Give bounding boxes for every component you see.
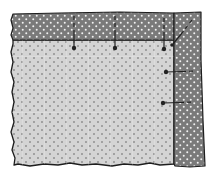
fabric-panel xyxy=(11,40,174,166)
sewing-binding-diagram xyxy=(0,0,216,177)
right-binding-strip xyxy=(174,12,205,167)
top-binding-strip xyxy=(11,12,174,40)
